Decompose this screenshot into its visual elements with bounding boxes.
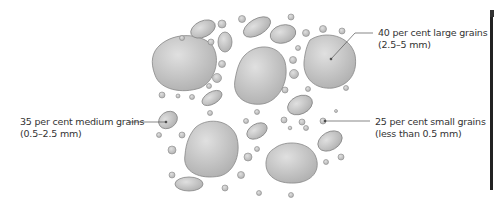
large-grains-size: (2.5–5 mm) [378,39,487,51]
medium-grain [268,22,298,46]
large-grain [266,143,317,183]
large-grain [304,35,356,88]
large-grains-label: 40 per cent large grains (2.5–5 mm) [378,27,487,51]
medium-grain [175,177,203,191]
large-grains-percent: 40 per cent large grains [378,27,487,39]
small-grains-size: (less than 0.5 mm) [375,128,486,140]
large-grain [152,36,216,91]
medium-grain [284,91,315,118]
medium-grains-percent: 35 per cent medium grains [20,116,144,128]
medium-grain [218,32,232,52]
large-grain [185,121,238,177]
large-grain [235,47,287,104]
medium-grain [314,127,346,156]
medium-grain [199,87,224,108]
right-frame-border [490,10,493,190]
small-grains-percent: 25 per cent small grains [375,116,486,128]
medium-grains-size: (0.5–2.5 mm) [20,128,144,140]
small-grains-label: 25 per cent small grains (less than 0.5 … [375,116,486,140]
right-frame-cap [490,10,494,17]
medium-grains-label: 35 per cent medium grains (0.5–2.5 mm) [20,116,144,140]
medium-grain [155,108,181,133]
